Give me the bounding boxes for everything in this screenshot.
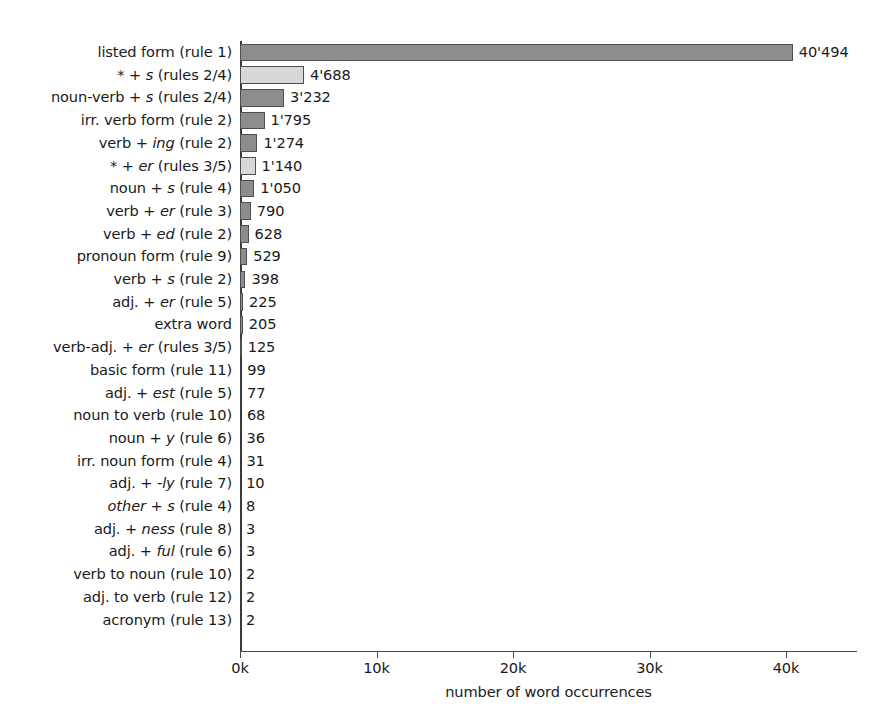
x-axis-tick-label: 20k (483, 659, 543, 676)
bar-value-label: 3 (246, 540, 255, 563)
bar-value-label: 36 (246, 427, 264, 450)
bar-row: adj. + est (rule 5)77 (0, 382, 887, 405)
bar-category-label: verb to noun (rule 10) (0, 563, 232, 586)
bar-row: other + s (rule 4)8 (0, 495, 887, 518)
x-axis-title: number of word occurrences (240, 683, 857, 700)
x-axis-tick (240, 652, 241, 658)
bar-row: pronoun form (rule 9)529 (0, 245, 887, 268)
bar-category-label: listed form (rule 1) (0, 41, 232, 64)
bar-value-label: 529 (253, 245, 281, 268)
bar (240, 89, 284, 107)
bar-category-label: * + er (rules 3/5) (0, 155, 232, 178)
bar-category-label: verb + ing (rule 2) (0, 132, 232, 155)
bar (240, 44, 793, 62)
bar-category-label: noun + y (rule 6) (0, 427, 232, 450)
bar-category-label: verb + s (rule 2) (0, 268, 232, 291)
x-axis-tick (513, 652, 514, 658)
bar-row: verb-adj. + er (rules 3/5)125 (0, 336, 887, 359)
bar (240, 157, 256, 175)
bar (240, 225, 249, 243)
bar-value-label: 10 (246, 472, 264, 495)
bar (240, 134, 257, 152)
bar-category-label: irr. verb form (rule 2) (0, 109, 232, 132)
bar (240, 316, 243, 334)
x-axis-tick-label: 40k (756, 659, 816, 676)
bar-row: adj. + er (rule 5)225 (0, 291, 887, 314)
bar-category-label: adj. to verb (rule 12) (0, 586, 232, 609)
x-axis-tick-label: 30k (620, 659, 680, 676)
bar-row: verb + ing (rule 2)1'274 (0, 132, 887, 155)
bar-row: adj. + ness (rule 8)3 (0, 518, 887, 541)
bar (240, 339, 242, 357)
bar-row: verb + ed (rule 2)628 (0, 223, 887, 246)
bar-value-label: 3'232 (290, 86, 331, 109)
bar-row: extra word205 (0, 313, 887, 336)
bar-value-label: 205 (249, 313, 277, 336)
bar-value-label: 628 (255, 223, 283, 246)
bar-category-label: adj. + ness (rule 8) (0, 518, 232, 541)
bar-row: noun + y (rule 6)36 (0, 427, 887, 450)
bar-value-label: 31 (246, 450, 264, 473)
bar-row: verb to noun (rule 10)2 (0, 563, 887, 586)
x-axis-tick-label: 0k (210, 659, 270, 676)
bar-row: adj. to verb (rule 12)2 (0, 586, 887, 609)
bar (240, 271, 245, 289)
bar-row: * + er (rules 3/5)1'140 (0, 155, 887, 178)
bar-row: adj. + ful (rule 6)3 (0, 540, 887, 563)
bar-value-label: 40'494 (799, 41, 849, 64)
bar-value-label: 77 (247, 382, 265, 405)
bar-category-label: noun-verb + s (rules 2/4) (0, 86, 232, 109)
bar-row: noun + s (rule 4)1'050 (0, 177, 887, 200)
bar-row: basic form (rule 11)99 (0, 359, 887, 382)
bar-category-label: adj. + -ly (rule 7) (0, 472, 232, 495)
bar-category-label: adj. + er (rule 5) (0, 291, 232, 314)
bar-value-label: 8 (246, 495, 255, 518)
bar-category-label: verb + er (rule 3) (0, 200, 232, 223)
bar-category-label: pronoun form (rule 9) (0, 245, 232, 268)
bar-category-label: verb-adj. + er (rules 3/5) (0, 336, 232, 359)
bar (240, 248, 247, 266)
x-axis-tick-label: 10k (347, 659, 407, 676)
bar-value-label: 3 (246, 518, 255, 541)
bar-value-label: 99 (247, 359, 265, 382)
bar-value-label: 2 (246, 563, 255, 586)
bar-category-label: noun to verb (rule 10) (0, 404, 232, 427)
bar-category-label: verb + ed (rule 2) (0, 223, 232, 246)
bar-row: verb + s (rule 2)398 (0, 268, 887, 291)
bar-value-label: 4'688 (310, 64, 351, 87)
bar-row: adj. + -ly (rule 7)10 (0, 472, 887, 495)
bar-value-label: 398 (251, 268, 279, 291)
bar (240, 180, 254, 198)
bar-chart: listed form (rule 1)40'494* + s (rules 2… (0, 0, 887, 727)
bar-value-label: 125 (248, 336, 276, 359)
bar-category-label: adj. + est (rule 5) (0, 382, 232, 405)
bar-row: noun to verb (rule 10)68 (0, 404, 887, 427)
bar-value-label: 2 (246, 586, 255, 609)
x-axis-tick (786, 652, 787, 658)
bar-category-label: other + s (rule 4) (0, 495, 232, 518)
bar-category-label: noun + s (rule 4) (0, 177, 232, 200)
bar-value-label: 1'795 (271, 109, 312, 132)
bar-value-label: 790 (257, 200, 285, 223)
bar-value-label: 1'274 (263, 132, 304, 155)
x-axis-line (240, 651, 857, 652)
bar-row: noun-verb + s (rules 2/4)3'232 (0, 86, 887, 109)
bar-row: irr. verb form (rule 2)1'795 (0, 109, 887, 132)
bar-value-label: 68 (247, 404, 265, 427)
bar (240, 112, 265, 130)
bar-value-label: 2 (246, 609, 255, 632)
bar-row: irr. noun form (rule 4)31 (0, 450, 887, 473)
bar-category-label: acronym (rule 13) (0, 609, 232, 632)
bar-category-label: irr. noun form (rule 4) (0, 450, 232, 473)
bar-row: verb + er (rule 3)790 (0, 200, 887, 223)
bar-category-label: extra word (0, 313, 232, 336)
bar-value-label: 1'140 (262, 155, 303, 178)
bar (240, 293, 243, 311)
bar (240, 66, 304, 84)
bar-category-label: * + s (rules 2/4) (0, 64, 232, 87)
bar-row: acronym (rule 13)2 (0, 609, 887, 632)
x-axis-tick (650, 652, 651, 658)
bar-row: listed form (rule 1)40'494 (0, 41, 887, 64)
bar-row: * + s (rules 2/4)4'688 (0, 64, 887, 87)
bar-value-label: 225 (249, 291, 277, 314)
